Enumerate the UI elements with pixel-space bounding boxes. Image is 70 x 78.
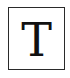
text-tool-button[interactable]: T [8, 7, 65, 70]
text-icon: T [21, 17, 52, 63]
